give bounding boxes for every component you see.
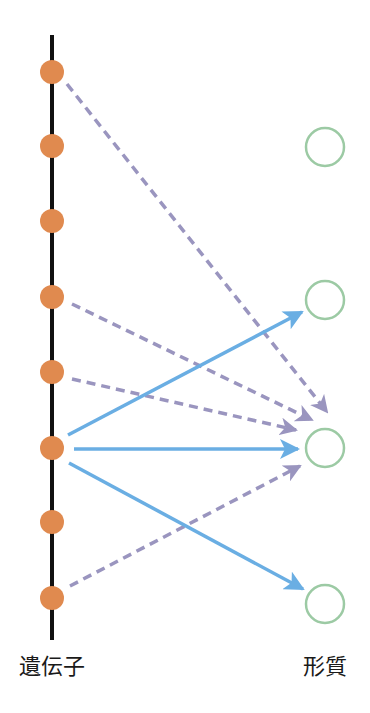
trait-circle xyxy=(306,585,344,623)
gene-dot xyxy=(40,209,64,233)
trait-circle xyxy=(306,429,344,467)
gene-dot xyxy=(40,134,64,158)
solid-arrow xyxy=(68,312,302,435)
genes-label: 遺伝子 xyxy=(19,648,85,680)
trait-layer xyxy=(306,128,344,623)
gene-dot xyxy=(40,586,64,610)
gene-dot xyxy=(40,360,64,384)
dashed-arrow xyxy=(72,304,312,420)
gene-dot xyxy=(40,60,64,84)
gene-dot xyxy=(40,285,64,309)
trait-circle xyxy=(306,281,344,319)
gene-trait-diagram xyxy=(0,0,370,713)
arrow-layer xyxy=(67,84,327,589)
traits-label: 形質 xyxy=(303,648,347,680)
trait-circle xyxy=(306,128,344,166)
gene-dot xyxy=(40,510,64,534)
dashed-arrow xyxy=(72,379,296,430)
gene-dot xyxy=(40,436,64,460)
